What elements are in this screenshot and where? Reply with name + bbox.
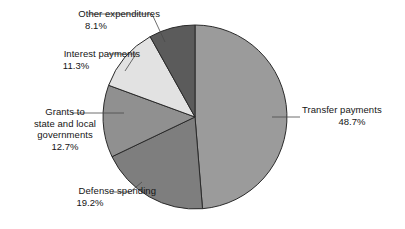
slice-label-transfer-payments: Transfer payments 48.7% (302, 104, 402, 127)
slice-label-interest-payments-name: Interest payments (12, 48, 140, 60)
slice-label-defense-spending-value: 19.2% (24, 197, 156, 209)
slice-label-grants-line3: governments (6, 129, 124, 141)
slice-label-other-expenditures-value: 8.1% (32, 20, 160, 32)
slice-label-other-expenditures-name: Other expenditures (32, 8, 160, 20)
slice-label-grants-line1: Grants to (6, 106, 124, 118)
slice-label-grants-line2: state and local (6, 118, 124, 130)
slice-label-grants-value: 12.7% (6, 141, 124, 153)
slice-label-transfer-payments-name: Transfer payments (302, 104, 402, 116)
slice-label-defense-spending: Defense spending 19.2% (24, 185, 156, 208)
pie-chart-figure: Other expenditures 8.1% Interest payment… (0, 0, 405, 229)
slice-label-other-expenditures: Other expenditures 8.1% (32, 8, 160, 31)
slice-label-interest-payments-value: 11.3% (12, 60, 140, 72)
slice-label-transfer-payments-value: 48.7% (302, 116, 402, 128)
slice-label-grants: Grants to state and local governments 12… (6, 106, 124, 152)
slice-label-interest-payments: Interest payments 11.3% (12, 48, 140, 71)
slice-label-defense-spending-name: Defense spending (24, 185, 156, 197)
